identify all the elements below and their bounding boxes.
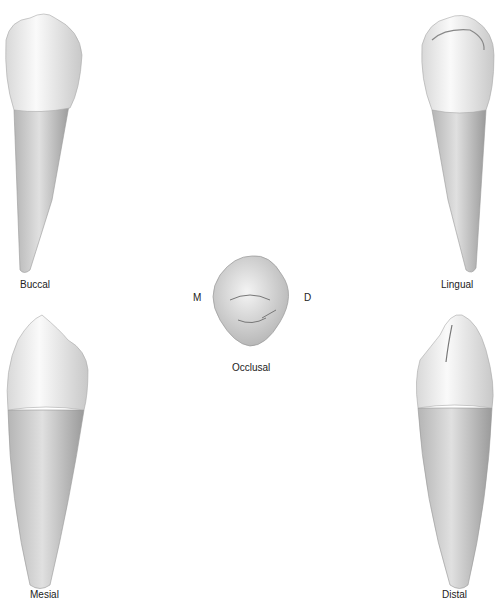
buccal-label: Buccal — [20, 279, 50, 290]
occlusal-view-tooth — [213, 256, 289, 346]
occlusal-label: Occlusal — [232, 362, 270, 373]
mesial-marker: M — [193, 292, 201, 303]
distal-view-tooth — [416, 315, 493, 589]
lingual-view-tooth — [422, 15, 494, 272]
lingual-label: Lingual — [441, 279, 473, 290]
distal-marker: D — [304, 292, 311, 303]
mesial-view-tooth — [7, 315, 88, 589]
distal-label: Distal — [442, 589, 467, 600]
buccal-view-tooth — [6, 14, 82, 273]
mesial-label: Mesial — [30, 589, 59, 600]
tooth-diagram — [0, 0, 502, 601]
